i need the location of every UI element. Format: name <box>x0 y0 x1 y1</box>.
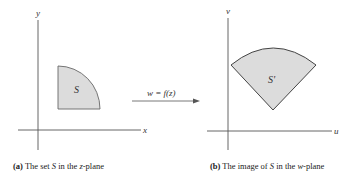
caption-a-tag: (a) <box>13 161 23 171</box>
caption-b-tag: (b) <box>210 161 220 171</box>
region-s-label: S <box>74 84 79 95</box>
caption-b-text-3: -plane <box>303 161 324 171</box>
y-axis-label: y <box>35 8 40 18</box>
caption-b-text-1: The image of <box>220 161 269 171</box>
x-axis-label: x <box>142 125 147 135</box>
caption-b: (b) The image of S in the w-plane <box>210 161 324 171</box>
region-s <box>58 66 100 109</box>
caption-a: (a) The set S in the z-plane <box>13 161 104 171</box>
mapping-label: w = f(z) <box>147 88 176 98</box>
mapping-arrow-group: w = f(z) <box>132 88 200 104</box>
caption-a-text-3: -plane <box>83 161 104 171</box>
caption-a-text-2: in the <box>56 161 79 171</box>
region-s-prime-label: S' <box>268 74 276 85</box>
mapping-diagram: y x S w = f(z) v u S' <box>0 0 358 183</box>
panel-b-w-plane: v u S' <box>207 6 339 150</box>
panel-a-z-plane: y x S <box>18 8 147 150</box>
arrow-head-icon <box>193 99 200 104</box>
u-axis-label: u <box>334 126 339 136</box>
v-axis-label: v <box>226 6 230 16</box>
caption-a-text-1: The set <box>23 161 52 171</box>
caption-b-text-2: in the <box>274 161 297 171</box>
